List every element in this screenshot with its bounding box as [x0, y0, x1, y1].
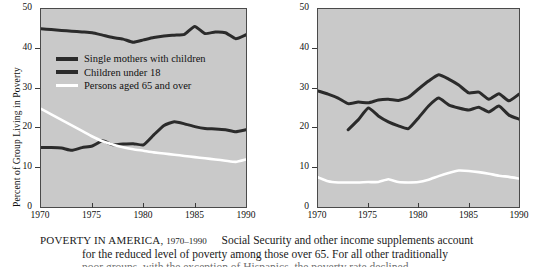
x-axis-tick-label: 1990 [237, 211, 256, 221]
y-axis-tick-label: 10 [287, 162, 309, 172]
x-axis-tick-mark [143, 203, 144, 208]
x-axis-tick-mark [469, 203, 470, 208]
y-axis-tick-mark [312, 48, 317, 49]
caption-line-1: POVERTY IN AMERICA, 1970–1990 Social Sec… [0, 234, 534, 248]
y-axis-tick-mark [35, 127, 40, 128]
x-axis-tick-mark [368, 203, 369, 208]
y-axis-tick-mark [35, 88, 40, 89]
chart-panel-right: Percent of Group Living in Poverty 50403… [262, 0, 534, 232]
legend-left: Single mothers with childrenChildren und… [56, 52, 206, 93]
caption-line-3: poor groups, with the exception of Hispa… [0, 261, 534, 267]
legend-swatch-icon [56, 57, 78, 61]
chart-panel-left: Percent of Group Living in Poverty 50403… [0, 0, 262, 232]
caption-title: POVERTY IN AMERICA, [40, 234, 163, 246]
legend-label: Single mothers with children [84, 52, 206, 66]
x-axis-tick-label: 1970 [31, 211, 50, 221]
y-axis-tick-mark [35, 167, 40, 168]
legend-swatch-icon [56, 84, 78, 87]
figure-caption: POVERTY IN AMERICA, 1970–1990 Social Sec… [0, 234, 534, 267]
legend-item: Children under 18 [56, 66, 206, 80]
axes-right: 5040302010019701975198019851990 [262, 0, 534, 232]
caption-years: 1970–1990 [166, 236, 207, 246]
x-axis-tick-label: 1980 [409, 211, 428, 221]
x-axis-tick-mark [418, 203, 419, 208]
y-axis-tick-label: 40 [287, 43, 309, 53]
x-axis-tick-label: 1985 [459, 211, 478, 221]
legend-item: Single mothers with children [56, 52, 206, 66]
legend-item: Persons aged 65 and over [56, 79, 206, 93]
y-axis-tick-label: 30 [10, 83, 32, 93]
legend-swatch-icon [56, 70, 78, 74]
x-axis-tick-mark [195, 203, 196, 208]
x-axis-tick-label: 1980 [134, 211, 153, 221]
y-axis-tick-label: 20 [287, 123, 309, 133]
y-axis-tick-mark [312, 88, 317, 89]
y-axis-tick-mark [312, 167, 317, 168]
y-axis-tick-label: 0 [287, 202, 309, 212]
x-axis-tick-label: 1975 [358, 211, 377, 221]
y-axis-tick-label: 50 [287, 3, 309, 13]
y-axis-tick-label: 40 [10, 43, 32, 53]
y-axis-tick-label: 50 [10, 3, 32, 13]
y-axis-tick-label: 0 [10, 202, 32, 212]
y-axis-tick-label: 30 [287, 83, 309, 93]
legend-label: Persons aged 65 and over [84, 79, 191, 93]
y-axis-tick-mark [35, 48, 40, 49]
figure-container: Percent of Group Living in Poverty 50403… [0, 0, 534, 274]
y-axis-tick-mark [312, 127, 317, 128]
x-axis-tick-mark [92, 203, 93, 208]
x-axis-tick-label: 1970 [308, 211, 327, 221]
x-axis-tick-label: 1975 [82, 211, 101, 221]
y-axis-tick-label: 20 [10, 123, 32, 133]
legend-label: Children under 18 [84, 66, 160, 80]
x-axis-tick-label: 1990 [510, 211, 529, 221]
caption-text-1: Social Security and other income supplem… [222, 234, 474, 246]
y-axis-tick-label: 10 [10, 162, 32, 172]
x-axis-tick-label: 1985 [185, 211, 204, 221]
caption-line-2: for the reduced level of poverty among t… [0, 248, 534, 261]
axes-left: 5040302010019701975198019851990 [0, 0, 262, 232]
